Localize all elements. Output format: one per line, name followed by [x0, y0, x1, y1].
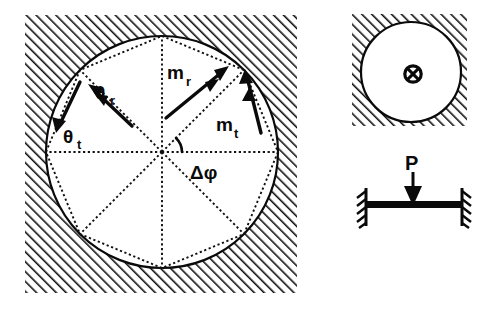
- m-r-sub: r: [186, 74, 191, 89]
- cross-section-panel: [352, 14, 467, 126]
- cross-in-circle-icon: [405, 66, 421, 82]
- delta-phi-label: Δφ: [190, 162, 217, 183]
- figure-root: θ r θ t m r m t Δφ P: [0, 0, 488, 311]
- load-label: P: [405, 152, 418, 174]
- m-t-sub: t: [234, 126, 239, 141]
- beam-member: [366, 201, 462, 208]
- m-t-label: m: [216, 114, 233, 135]
- discretized-ring-panel: θ r θ t m r m t Δφ: [25, 15, 297, 293]
- theta-r-label: θ: [95, 82, 105, 103]
- m-r-label: m: [167, 62, 184, 83]
- technical-diagram: θ r θ t m r m t Δφ P: [0, 0, 488, 311]
- theta-t-sub: t: [77, 137, 82, 152]
- theta-t-label: θ: [63, 126, 73, 147]
- theta-r-sub: r: [110, 93, 115, 108]
